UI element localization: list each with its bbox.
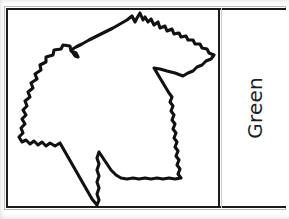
- label-text-rotated: Green: [224, 9, 286, 207]
- cell-divider-ghost-line: [221, 8, 222, 208]
- label-value: Green: [243, 77, 267, 139]
- scanned-page: Green: [0, 0, 289, 219]
- label-cell: Green: [224, 9, 286, 207]
- maple-leaf-drawing: [8, 9, 218, 207]
- leaf-outline-path: [19, 13, 214, 205]
- cell-divider-line: [218, 8, 220, 208]
- leaf-illustration-cell: [8, 9, 218, 207]
